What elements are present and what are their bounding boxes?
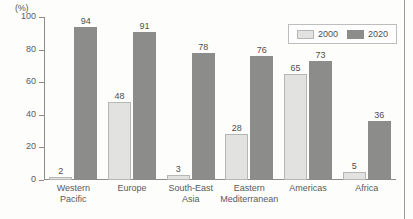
bar-value-label: 78 bbox=[198, 42, 208, 52]
y-axis-tick-label: 20 bbox=[6, 141, 43, 151]
bar-group: 378South-EastAsia bbox=[161, 17, 220, 180]
bar-rect[interactable] bbox=[74, 27, 97, 180]
x-axis-category-line: Mediterranean bbox=[206, 194, 292, 205]
bar-rect[interactable] bbox=[49, 177, 72, 180]
bar-value-label: 73 bbox=[315, 50, 325, 60]
x-axis-category-line: Africa bbox=[324, 183, 410, 194]
bar-value-label: 3 bbox=[176, 164, 181, 174]
legend-label-2000: 2000 bbox=[318, 29, 338, 39]
legend-swatch-2020 bbox=[347, 30, 364, 39]
bar-item[interactable]: 3 bbox=[167, 17, 190, 180]
bar-value-label: 28 bbox=[232, 123, 242, 133]
bar-rect[interactable] bbox=[133, 32, 156, 180]
bar-value-label: 5 bbox=[352, 161, 357, 171]
bar-item[interactable]: 48 bbox=[108, 17, 131, 180]
bar-item[interactable]: 78 bbox=[192, 17, 215, 180]
legend-swatch-2000 bbox=[297, 30, 314, 39]
legend-item-2020[interactable]: 2020 bbox=[347, 29, 388, 39]
bar-rect[interactable] bbox=[284, 74, 307, 180]
bar-chart: (%) 020406080100 294WesternPacific4891Eu… bbox=[0, 0, 413, 219]
y-axis-tick-label: 80 bbox=[6, 44, 43, 54]
y-axis-tick-label: 60 bbox=[6, 76, 43, 86]
bar-group-bars: 2876 bbox=[220, 17, 279, 180]
bar-value-label: 91 bbox=[139, 21, 149, 31]
bar-rect[interactable] bbox=[108, 102, 131, 180]
legend-item-2000[interactable]: 2000 bbox=[297, 29, 338, 39]
bar-group-bars: 294 bbox=[44, 17, 103, 180]
bar-group-bars: 4891 bbox=[103, 17, 162, 180]
bar-item[interactable]: 2 bbox=[49, 17, 72, 180]
bar-item[interactable]: 28 bbox=[225, 17, 248, 180]
bar-rect[interactable] bbox=[192, 53, 215, 180]
y-axis-tick-label: 100 bbox=[6, 11, 43, 21]
bar-value-label: 65 bbox=[290, 63, 300, 73]
bar-item[interactable]: 94 bbox=[74, 17, 97, 180]
bar-value-label: 36 bbox=[374, 110, 384, 120]
bar-value-label: 48 bbox=[114, 91, 124, 101]
legend-label-2020: 2020 bbox=[368, 29, 388, 39]
bar-rect[interactable] bbox=[225, 134, 248, 180]
bar-group: 2876EasternMediterranean bbox=[220, 17, 279, 180]
bar-item[interactable]: 76 bbox=[250, 17, 273, 180]
bar-rect[interactable] bbox=[167, 175, 190, 180]
bar-rect[interactable] bbox=[368, 121, 391, 180]
x-axis-category-line: Pacific bbox=[30, 194, 116, 205]
y-axis-tick-label: 40 bbox=[6, 109, 43, 119]
bar-group: 294WesternPacific bbox=[44, 17, 103, 180]
bar-value-label: 2 bbox=[58, 166, 63, 176]
bar-group: 4891Europe bbox=[103, 17, 162, 180]
bar-item[interactable]: 91 bbox=[133, 17, 156, 180]
x-axis-category-label: Africa bbox=[324, 183, 410, 194]
bar-group-bars: 378 bbox=[161, 17, 220, 180]
bar-rect[interactable] bbox=[343, 172, 366, 180]
legend: 2000 2020 bbox=[288, 24, 397, 44]
bar-value-label: 94 bbox=[81, 16, 91, 26]
bar-rect[interactable] bbox=[309, 61, 332, 180]
bar-rect[interactable] bbox=[250, 56, 273, 180]
bar-value-label: 76 bbox=[257, 45, 267, 55]
